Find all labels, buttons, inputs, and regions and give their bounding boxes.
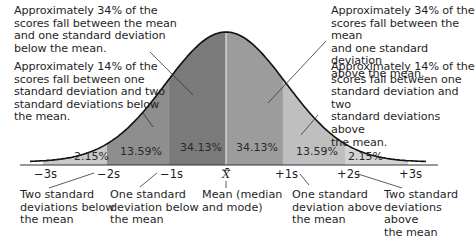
annotation-14-above: Approximately 14% of the scores fall bet… xyxy=(331,61,476,149)
tick-minus-3s: −3s xyxy=(34,168,57,180)
percent-band-3: 34.13% xyxy=(180,142,222,154)
caption-one-above: One standard deviation above the mean xyxy=(292,189,382,227)
normal-distribution-figure: Approximately 34% of the scores fall bet… xyxy=(0,0,476,240)
leader-one-below xyxy=(140,173,157,187)
caption-two-below: Two standard deviations below the mean xyxy=(20,189,114,227)
tick-plus-1s: +1s xyxy=(275,168,298,180)
percent-band-6: 2.15% xyxy=(348,151,383,163)
caption-mean: Mean (median and mode) xyxy=(202,189,282,214)
tick-plus-2s: +2s xyxy=(337,168,360,180)
tick-minus-1s: −1s xyxy=(160,168,183,180)
percent-band-2: 13.59% xyxy=(120,146,162,158)
percent-band-5: 13.59% xyxy=(296,146,338,158)
leader-one-above xyxy=(300,174,309,185)
annotation-14-below: Approximately 14% of the scores fall bet… xyxy=(14,61,165,124)
percent-band-4: 34.13% xyxy=(236,142,278,154)
caption-one-below: One standard deviation below the mean xyxy=(110,189,199,227)
tick-plus-3s: +3s xyxy=(399,168,422,180)
percent-band-1: 2.15% xyxy=(74,151,109,163)
annotation-34-below: Approximately 34% of the scores fall bet… xyxy=(14,5,177,55)
caption-two-above: Two standard deviations above the mean xyxy=(384,189,476,239)
tick-minus-2s: −2s xyxy=(97,168,120,180)
leader-two-above xyxy=(358,174,402,188)
tick-mean: X̄ xyxy=(222,168,230,180)
